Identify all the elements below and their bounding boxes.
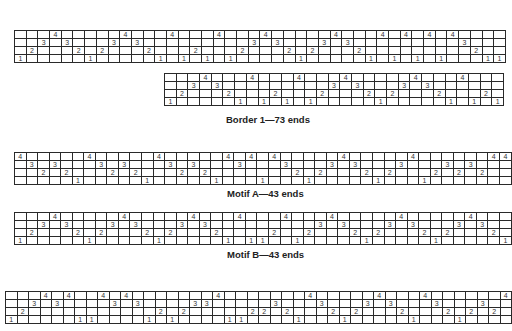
draft-cell (468, 90, 480, 98)
draft-cell (130, 161, 142, 169)
draft-cell (236, 300, 248, 308)
draft-cell: 4 (410, 74, 422, 82)
draft-cell (84, 229, 96, 237)
draft-cell (431, 292, 443, 300)
draft-cell (38, 47, 50, 55)
draft-cell (433, 98, 445, 106)
draft-cell: 3 (188, 161, 200, 169)
draft-cell (50, 47, 62, 55)
draft-cell (84, 221, 96, 229)
draft-cell: 1 (85, 55, 97, 63)
draft-cell: 3 (165, 161, 177, 169)
draft-cell: 3 (338, 221, 350, 229)
draft-cell (153, 221, 165, 229)
draft-cell (361, 153, 373, 161)
draft-cell (121, 300, 133, 308)
draft-cell: 4 (420, 292, 432, 300)
draft-cell (213, 55, 225, 63)
draft-cell: 3 (407, 221, 419, 229)
draft-cell (260, 47, 272, 55)
draft-cell (118, 169, 130, 177)
draft-cell (303, 213, 315, 221)
draft-cell (225, 39, 237, 47)
draft-cell (408, 300, 420, 308)
draft-cell (377, 39, 389, 47)
draft-cell (246, 98, 258, 106)
draft-cell: 4 (188, 213, 200, 221)
draft-cell: 2 (178, 308, 190, 316)
draft-cell (349, 237, 361, 245)
draft-cell (362, 292, 374, 300)
shaft-row-3: 333333 (165, 82, 504, 90)
draft-cell: 3 (465, 161, 477, 169)
draft-cell (72, 169, 84, 177)
draft-cell (61, 161, 73, 169)
draft-cell: 3 (316, 300, 328, 308)
draft-cell (303, 161, 315, 169)
draft-cell: 4 (374, 292, 386, 300)
draft-cell: 1 (245, 237, 257, 245)
draft-cell (398, 74, 410, 82)
draft-cell (375, 74, 387, 82)
draft-cell (389, 39, 401, 47)
draft-cell: 1 (339, 316, 351, 324)
draft-cell (247, 292, 259, 300)
draft-cell (431, 316, 443, 324)
draft-cell (453, 229, 465, 237)
draft-cell: 2 (480, 90, 492, 98)
draft-cell: 4 (280, 213, 292, 221)
draft-cell (245, 177, 257, 185)
draft-cell (293, 300, 305, 308)
draft-cell: 4 (84, 153, 96, 161)
draft-cell (130, 229, 142, 237)
draft-cell: 2 (176, 90, 188, 98)
draft-cell (433, 82, 445, 90)
draft-cell (470, 39, 482, 47)
draft-cell (372, 237, 384, 245)
shaft-row-1: 1111111 (15, 177, 512, 185)
draft-cell (340, 82, 352, 90)
draft-cell: 2 (176, 169, 188, 177)
draft-cell (328, 300, 340, 308)
draft-cell (73, 55, 85, 63)
draft-cell: 3 (477, 300, 489, 308)
draft-cell (49, 221, 61, 229)
draft-cell (326, 169, 338, 177)
draft-cell (167, 292, 179, 300)
draft-cell: 3 (108, 39, 120, 47)
draft-cell (132, 308, 144, 316)
draft-cell (188, 237, 200, 245)
draft-cell: 1 (454, 316, 466, 324)
draft-cell (454, 300, 466, 308)
shaft-row-2: 22222222 (165, 90, 504, 98)
draft-cell (470, 55, 482, 63)
draft-cell: 3 (199, 221, 211, 229)
draft-cell (389, 47, 401, 55)
draft-cell (223, 74, 235, 82)
draft-cell (107, 229, 119, 237)
draft-cell (176, 153, 188, 161)
draft-caption: Motif B—43 ends (227, 249, 304, 260)
draft-cell: 1 (15, 55, 27, 63)
draft-cell (387, 98, 399, 106)
draft-cell: 2 (223, 90, 235, 98)
draft-cell (280, 237, 292, 245)
draft-cell (270, 308, 282, 316)
draft-cell (155, 316, 167, 324)
draft-cell (259, 292, 271, 300)
draft-cell (385, 292, 397, 300)
draft-cell: 1 (202, 55, 214, 63)
draft-cell (374, 308, 386, 316)
draft-cell (435, 31, 447, 39)
draft-cell (351, 292, 363, 300)
draft-cell (38, 213, 50, 221)
draft-cell (95, 177, 107, 185)
draft-cell (372, 213, 384, 221)
draft-cell (476, 177, 488, 185)
draft-cell: 2 (419, 229, 431, 237)
draft-cell (236, 292, 248, 300)
draft-cell: 2 (26, 47, 38, 55)
draft-cell (26, 213, 38, 221)
draft-cell: 4 (269, 153, 281, 161)
draft-cell (447, 55, 459, 63)
